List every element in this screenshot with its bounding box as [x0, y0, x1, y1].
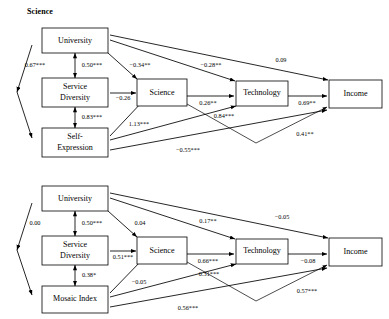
coef-servdiv-selfexp-cov: 0.83***	[82, 113, 102, 120]
edge-science-income	[187, 262, 327, 301]
coef-univ-technology: −0.28**	[201, 61, 222, 68]
coef-science-income: 0.41**	[296, 130, 313, 137]
coef-servdiv-science: 0.51***	[113, 253, 133, 260]
node-university-label: University	[58, 36, 92, 45]
edge-univ-income	[110, 193, 328, 238]
edge-univ-science	[108, 211, 137, 237]
edge-mosaic-technology	[110, 264, 236, 297]
coef-selfexp-science: 1.13***	[129, 120, 149, 127]
coef-servdiv-science: −0.26	[116, 94, 131, 101]
node-income-label: Income	[344, 89, 368, 98]
coef-science-income: 0.57***	[297, 287, 317, 294]
node-service-diversity-label-line1: Service	[63, 82, 87, 91]
node-self-expression-label-line1: Self-	[67, 132, 83, 141]
coef-univ-income: −0.05	[275, 213, 290, 220]
coef-science-technology: 0.26**	[199, 99, 216, 106]
coef-univ-mosaic-cov: 0.00	[29, 219, 40, 226]
edge-cov-univ-mosaic-upper	[17, 203, 32, 250]
node-science-label: Science	[150, 246, 175, 255]
coef-selfexp-income: −0.55***	[176, 146, 200, 153]
coef-mosaic-technology: 0.31***	[199, 270, 219, 277]
coef-science-technology: 0.66***	[198, 257, 218, 264]
coef-univ-science: −0.34**	[130, 61, 151, 68]
coef-selfexp-technology: 0.84***	[214, 112, 234, 119]
coef-univ-servdiv-cov: 0.50***	[82, 61, 102, 68]
node-service-diversity-label-line1: Service	[63, 240, 87, 249]
node-service-diversity-label-line2: Diversity	[60, 251, 90, 260]
path-diagram-science: University Service Diversity Self- Expre…	[0, 0, 389, 160]
panel-science: Science	[0, 0, 389, 160]
node-science-label: Science	[150, 88, 175, 97]
coef-univ-technology: 0.17**	[199, 217, 216, 224]
coef-univ-servdiv-cov: 0.50***	[82, 219, 102, 226]
coef-mosaic-science: −0.05	[132, 278, 147, 285]
coef-univ-selfexp-cov: 0.67***	[25, 61, 45, 68]
edge-univ-income	[110, 35, 328, 80]
node-income-label: Income	[344, 247, 368, 256]
coef-univ-science: 0.04	[134, 219, 146, 226]
edge-cov-univ-mosaic-lower	[17, 250, 32, 295]
panel-mosaic: University Service Diversity Mosaic Inde…	[0, 160, 389, 319]
node-service-diversity-label-line2: Diversity	[60, 93, 90, 102]
node-mosaic-index-label: Mosaic Index	[53, 294, 97, 303]
coef-mosaic-income: 0.56***	[178, 304, 198, 311]
figure-root: Science	[0, 0, 389, 319]
node-technology-label: Technology	[243, 246, 281, 255]
coef-univ-income: 0.09	[275, 56, 286, 63]
node-university-label: University	[58, 194, 92, 203]
coef-technology-income: 0.69**	[298, 99, 315, 106]
node-technology-label: Technology	[243, 88, 281, 97]
path-diagram-mosaic: University Service Diversity Mosaic Inde…	[0, 160, 389, 319]
coef-technology-income: −0.08	[301, 257, 316, 264]
edge-cov-univ-selfexp-upper	[17, 45, 32, 92]
node-self-expression-label-line2: Expression	[57, 143, 93, 152]
coef-servdiv-mosaic-cov: 0.38*	[82, 271, 96, 278]
edge-cov-univ-selfexp-lower	[17, 92, 32, 138]
